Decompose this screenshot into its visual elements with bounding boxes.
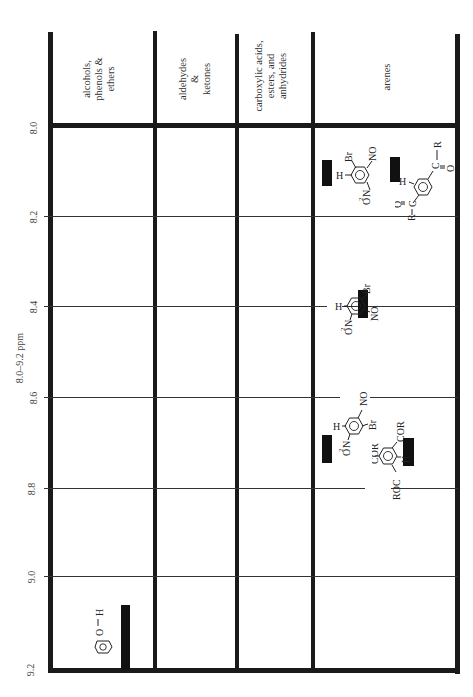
header-line: esters, and (265, 26, 277, 126)
header-line: carboxylic acids, (253, 26, 265, 126)
svg-text:O: O (395, 201, 403, 208)
atom-h: H (333, 421, 340, 432)
structure-phenol: O H (85, 600, 121, 660)
atom-br: Br (361, 283, 372, 294)
header-line: anhydrides (277, 26, 289, 126)
tick-label-8-2: 8.2 (28, 205, 40, 229)
atom-o: O (94, 629, 105, 636)
axis-title: 8.0–9.2 ppm (14, 318, 26, 398)
gridline-8-6 (44, 397, 458, 398)
structure-dinitrobromobenzene-1: H Br NO O 2 N (330, 135, 390, 215)
svg-text:R: R (432, 141, 443, 148)
atom-h: H (335, 301, 342, 312)
header-aldehydes: aldehydes & ketones (177, 39, 215, 119)
svg-text:N: N (361, 190, 372, 197)
group-cor-right: COR (395, 421, 406, 442)
bar-phenol-oh (121, 605, 130, 670)
structure-diacylbenzene: H C R O C R O (395, 135, 457, 220)
header-carboxylic: carboxylic acids, esters, and anhydrides (253, 26, 291, 126)
atom-h: H (94, 609, 105, 616)
baseline-8-0 (48, 123, 460, 128)
gridline-8-4-stub (317, 306, 327, 307)
svg-text:N: N (343, 320, 354, 327)
header-line: aldehydes (177, 39, 189, 119)
group-cor-left: COR (372, 443, 380, 464)
header-line: arenes (381, 47, 393, 107)
tick-label-8-0: 8.0 (28, 116, 40, 140)
header-arenes: arenes (381, 47, 395, 107)
tick-label-8-8: 8.8 (26, 477, 38, 501)
atom-h: H (336, 170, 343, 181)
header-line: ethers (105, 39, 117, 119)
svg-text:C: C (430, 162, 441, 169)
structure-dinitrobromobenzene-2: H Br NO O 2 N (330, 270, 390, 350)
tick-label-8-4: 8.4 (28, 295, 40, 319)
svg-text:R: R (406, 214, 417, 220)
gridline-8-4 (44, 306, 458, 307)
atom-h: H (400, 456, 411, 463)
atom-no2: NO (367, 147, 378, 161)
svg-text:N: N (341, 441, 352, 448)
svg-text:O: O (445, 165, 456, 172)
tick-label-8-6: 8.6 (28, 386, 40, 410)
header-line: & (189, 39, 201, 119)
tick-label-9-2: 9.2 (25, 658, 37, 682)
header-line: alcohols, (81, 39, 93, 119)
atom-no2: NO (369, 307, 380, 321)
frame-bottom (48, 668, 460, 673)
gridline-9-0 (44, 576, 458, 577)
header-line: phenols & (93, 39, 105, 119)
atom-h: H (399, 176, 406, 187)
atom-no2: NO (358, 392, 369, 406)
frame-right (455, 34, 460, 674)
header-alcohols: alcohols, phenols & ethers (81, 39, 119, 119)
group-roc: ROC (391, 479, 402, 500)
atom-br: Br (343, 151, 354, 162)
svg-text:C: C (407, 200, 418, 207)
header-line: ketones (201, 39, 213, 119)
tick-label-9-0: 9.0 (26, 565, 38, 589)
structure-triacylbenzene: COR COR H ROC (372, 410, 417, 500)
